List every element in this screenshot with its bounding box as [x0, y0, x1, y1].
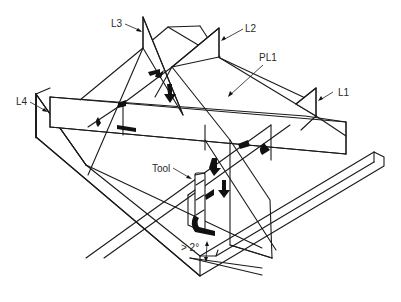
- label-tool: Tool: [152, 163, 170, 174]
- label-l2: L2: [245, 23, 257, 34]
- label-l4: L4: [16, 96, 28, 107]
- label-l1: L1: [338, 87, 350, 98]
- label-l3: L3: [111, 18, 123, 29]
- label-pl1: PL1: [259, 52, 277, 63]
- diagram-lines: L3 L2 PL1 L1 L4 Tool > 2°: [0, 0, 401, 302]
- label-angle: > 2°: [181, 242, 199, 253]
